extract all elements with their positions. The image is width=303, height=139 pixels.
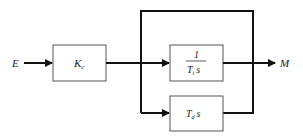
derivative-block: Tds [170, 96, 223, 131]
gain-block: Kc [53, 45, 106, 81]
integral-numerator: 1 [194, 49, 199, 60]
integral-denominator-s: s [196, 64, 200, 75]
derivative-s: s [197, 108, 201, 119]
integral-block: 1 Tis [170, 45, 223, 81]
output-label-M: M [279, 57, 290, 69]
pid-block-diagram: E Kc 1 Tis Tds M [0, 0, 303, 139]
input-label-E: E [11, 57, 19, 69]
